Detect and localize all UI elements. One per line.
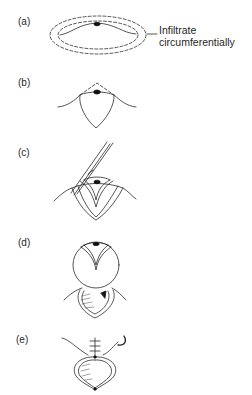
panel-b-drawing (58, 83, 136, 128)
closure-bottom-point (94, 388, 96, 390)
flap-v (81, 247, 111, 270)
forceps-arm-3 (77, 143, 113, 194)
pedicle (101, 291, 106, 298)
panel-d-drawing (64, 242, 126, 318)
panel-e-drawing (62, 336, 125, 390)
panel-c-drawing (54, 142, 136, 220)
incision-outline (80, 95, 114, 128)
lesion (94, 180, 100, 184)
outer-infiltration-boundary (50, 16, 146, 54)
figure-drawings (0, 0, 252, 395)
closure-top-point (94, 356, 96, 358)
skin-surface-left (64, 288, 82, 300)
forceps-arm-2 (74, 144, 110, 195)
suture-thread-left (62, 338, 88, 355)
lesion (94, 90, 100, 94)
hatching (81, 364, 92, 380)
lesion (94, 22, 100, 26)
lesion (93, 242, 99, 245)
forceps-arm-1 (71, 142, 107, 193)
flap-v-inner (84, 245, 108, 265)
skin-surface (54, 184, 136, 202)
flap-top (84, 177, 110, 180)
suture-thread-right (103, 342, 118, 355)
surgical-procedure-figure: (a) (b) (c) (d) (e) Infiltrate circumfer… (0, 0, 252, 395)
closed-wound-outer (74, 357, 116, 390)
suture-needle (118, 336, 125, 345)
panel-a-drawing (50, 16, 157, 54)
hatching (81, 294, 94, 308)
closed-wound-inner (78, 360, 111, 388)
